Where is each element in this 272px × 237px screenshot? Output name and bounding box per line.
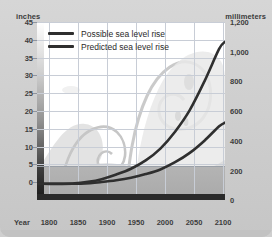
y2-tick-600: 600: [230, 107, 264, 116]
plot-area: Possible sea level rise Predicted sea le…: [37, 22, 225, 200]
y2-tick-0: 0: [230, 196, 264, 205]
y2-tick-800: 800: [230, 77, 264, 86]
y-axis-left-labels: 45 40 35 30 25 20 15 10 5 0: [3, 22, 33, 200]
chart-card: inches millimeters: [0, 0, 272, 237]
y-tick-35: 35: [3, 54, 33, 63]
y-tick-5: 5: [3, 160, 33, 169]
legend-item-possible: Possible sea level rise: [48, 27, 169, 40]
y2-tick-400: 400: [230, 137, 264, 146]
y-tick-0: 0: [3, 178, 33, 187]
y2-tick-1000: 1,000: [230, 48, 264, 57]
line-predicted-sea-level-rise: [37, 123, 225, 184]
legend-swatch-predicted: [48, 45, 74, 48]
card-bottom-lip: [0, 230, 272, 237]
sea-floor-bar: [37, 194, 225, 200]
line-possible-sea-level-rise: [37, 42, 225, 184]
y-tick-15: 15: [3, 125, 33, 134]
y-tick-30: 30: [3, 71, 33, 80]
y-axis-right-labels: 1,200 1,000 800 600 400 200 0: [230, 22, 266, 200]
legend-swatch-possible: [48, 32, 74, 35]
y2-tick-1200: 1,200: [230, 18, 264, 27]
legend-item-predicted: Predicted sea level rise: [48, 40, 169, 53]
y-tick-40: 40: [3, 36, 33, 45]
y-tick-45: 45: [3, 18, 33, 27]
y2-tick-200: 200: [230, 167, 264, 176]
sea-level-rise-chart: inches millimeters: [0, 0, 272, 237]
y-tick-20: 20: [3, 107, 33, 116]
y-tick-25: 25: [3, 89, 33, 98]
chart-legend: Possible sea level rise Predicted sea le…: [48, 27, 169, 53]
y-tick-10: 10: [3, 143, 33, 152]
legend-label-possible: Possible sea level rise: [81, 29, 165, 39]
x-tick-2100: 2100: [206, 218, 240, 227]
legend-label-predicted: Predicted sea level rise: [81, 42, 169, 52]
